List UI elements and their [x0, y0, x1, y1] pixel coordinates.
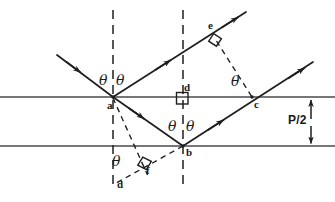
reflected-ray-ae-arrowhead-mid: [156, 60, 171, 70]
path-difference-label: P/2: [288, 114, 307, 126]
point-label-d-lower: d: [117, 179, 123, 190]
theta-label-b-right: θ: [186, 119, 194, 133]
theta-label-a-right: θ: [116, 73, 124, 87]
reflected-ray-bc-arrowhead-mid: [208, 120, 224, 130]
theta-label-c: θ: [231, 74, 239, 88]
ray-diagram-figure: θ θ θ θ θ θ a b c d d e f P/2: [0, 0, 335, 202]
incident-ray-arrowhead: [67, 62, 81, 73]
point-label-e: e: [208, 20, 213, 31]
refracted-ray-ab-arrowhead: [129, 108, 144, 119]
ray-paths: [57, 12, 313, 146]
point-label-c: c: [254, 99, 259, 110]
diagram-canvas: [0, 0, 335, 202]
theta-label-a-left: θ: [99, 73, 107, 87]
theta-label-b-left: θ: [168, 119, 176, 133]
point-label-d-upper: d: [184, 82, 190, 93]
reflected-ray-ae-arrowhead-end: [222, 17, 238, 27]
reflected-ray-bc-arrowhead-end: [289, 68, 305, 78]
normal-lines: [113, 10, 183, 190]
point-label-a: a: [107, 100, 113, 111]
point-label-b: b: [186, 147, 192, 158]
theta-label-d-lower: θ: [112, 154, 120, 168]
vertex-dot-b: [181, 144, 184, 147]
point-label-f: f: [146, 165, 150, 176]
